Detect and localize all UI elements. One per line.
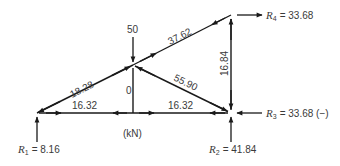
member-label-bottom-chord-left: 16.32 xyxy=(72,100,97,111)
arrow-center-diagonal-bottom-icon xyxy=(210,103,227,111)
member-label-right-vertical: 16.84 xyxy=(219,51,230,76)
truss-diagram: 50 18.28 37.62 16.84 55.90 0 16.32 16.32… xyxy=(0,0,340,166)
member-label-left-diagonal: 18.28 xyxy=(68,79,96,100)
reaction-r4-label: R4= 33.68 xyxy=(265,9,314,22)
reaction-r2-label: R2= 41.84 xyxy=(208,143,257,156)
arrow-top-chord-right-icon xyxy=(212,18,225,25)
member-label-center-diagonal: 55.90 xyxy=(172,72,200,93)
applied-load-label: 50 xyxy=(127,24,139,35)
member-label-bottom-chord-right: 16.32 xyxy=(168,100,193,111)
reaction-r3-label: R3= 33.68 (−) xyxy=(265,107,329,120)
reaction-labels: R4= 33.68 R3= 33.68 (−) R2= 41.84 R1= 8.… xyxy=(17,9,329,156)
arrow-left-diagonal-top-icon xyxy=(112,67,130,76)
arrow-left-diagonal-bottom-icon xyxy=(39,102,61,113)
units-label: (kN) xyxy=(123,128,142,139)
arrow-top-chord-left-icon xyxy=(140,53,156,61)
member-label-top-chord: 37.62 xyxy=(166,25,194,46)
reaction-r1-label: R1= 8.16 xyxy=(17,143,60,156)
member-labels: 50 18.28 37.62 16.84 55.90 0 16.32 16.32… xyxy=(68,24,230,139)
member-label-center-vertical: 0 xyxy=(126,85,132,96)
external-forces xyxy=(37,15,262,142)
arrow-center-diagonal-top-icon xyxy=(137,67,155,76)
